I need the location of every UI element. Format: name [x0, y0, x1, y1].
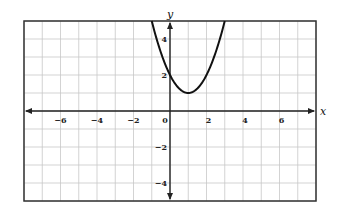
y-tick-label: −2 — [155, 142, 167, 152]
y-axis-arrow-up-icon — [167, 22, 173, 29]
x-axis-label: x — [320, 105, 327, 118]
x-tick-label: −6 — [54, 115, 67, 125]
y-tick-label: 2 — [161, 70, 167, 80]
y-axis-label: y — [166, 8, 174, 21]
axes — [25, 22, 315, 200]
x-tick-label: 2 — [206, 115, 212, 125]
x-tick-label: 6 — [279, 115, 285, 125]
y-tick-label: 4 — [161, 34, 167, 44]
y-tick-label: −4 — [155, 178, 168, 188]
y-axis-arrow-down-icon — [167, 193, 173, 200]
x-axis-arrow-left-icon — [25, 108, 32, 114]
x-axis-arrow-right-icon — [308, 108, 315, 114]
x-tick-label: 4 — [242, 115, 248, 125]
x-tick-label: 0 — [162, 115, 168, 125]
x-tick-label: −4 — [91, 115, 104, 125]
x-tick-label: −2 — [127, 115, 139, 125]
coordinate-plane: −6−4−2024642−2−4 x y — [0, 0, 338, 212]
